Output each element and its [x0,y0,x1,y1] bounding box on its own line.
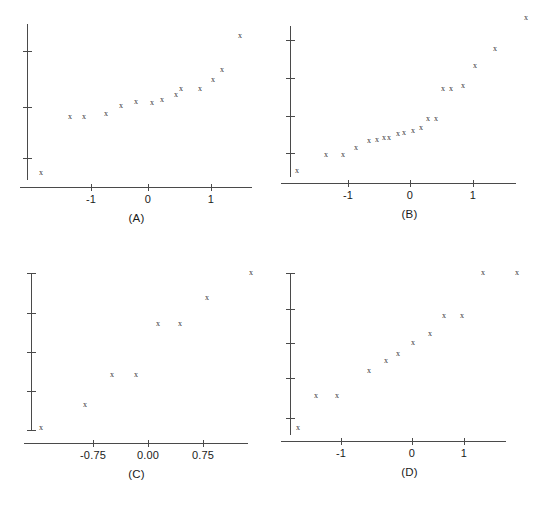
panel-d: -101xxxxxxxxxxxx(D) [273,253,546,506]
panel-label: (D) [273,466,546,478]
data-point-marker: x [442,312,446,320]
y-axis-tick [23,107,32,108]
data-point-marker: x [296,424,300,432]
x-axis-tick-label: 0 [409,447,415,459]
x-axis-tick-label: -0.75 [80,449,106,461]
y-axis-tick [286,418,295,419]
data-point-marker: x [178,320,182,328]
data-point-marker: x [198,85,202,93]
x-axis-tick-label: 1 [208,193,214,205]
x-axis-tick [348,180,349,187]
y-axis-tick [286,343,295,344]
data-point-marker: x [104,110,108,118]
y-axis-tick [286,273,295,274]
y-axis-line [290,26,291,177]
y-axis-tick [23,51,32,52]
x-axis-tick-label: 0 [407,189,413,201]
y-axis-tick [27,313,36,314]
data-point-marker: x [238,32,242,40]
data-point-marker: x [384,357,388,365]
data-point-marker: x [387,134,391,142]
y-axis-tick [286,378,295,379]
x-axis-tick [148,184,149,191]
x-axis-tick [412,438,413,445]
x-axis-tick [341,438,342,445]
data-point-marker: x [39,169,43,177]
x-axis-line [20,187,252,188]
data-point-marker: x [150,99,154,107]
x-axis-tick-label: 0.00 [137,449,159,461]
data-point-marker: x [411,127,415,135]
data-point-marker: x [515,269,519,277]
panel-b: -101xxxxxxxxxxxxxxxxxxxx(B) [273,0,546,253]
data-point-marker: x [83,401,87,409]
x-axis-tick-label: -1 [343,189,353,201]
y-axis-tick [23,158,32,159]
y-axis-tick [286,153,295,154]
x-axis-tick-label: -1 [86,193,96,205]
data-point-marker: x [367,137,371,145]
panel-c: -0.750.000.75xxxxxxxx(C) [0,253,273,506]
data-point-marker: x [524,14,528,22]
x-axis-tick-label: 0.75 [192,449,214,461]
x-axis-tick [473,180,474,187]
data-point-marker: x [434,115,438,123]
data-point-marker: x [314,392,318,400]
panel-label: (C) [0,468,273,480]
data-point-marker: x [68,113,72,121]
data-point-marker: x [211,76,215,84]
data-point-marker: x [402,129,406,137]
data-point-marker: x [461,82,465,90]
data-point-marker: x [134,98,138,106]
data-point-marker: x [156,320,160,328]
panel-a: -101xxxxxxxxxxxxxx(A) [0,0,273,253]
data-point-marker: x [375,136,379,144]
data-point-marker: x [82,113,86,121]
y-axis-tick [27,391,36,392]
data-point-marker: x [460,312,464,320]
data-point-marker: x [411,339,415,347]
data-point-marker: x [134,371,138,379]
x-axis-line [281,183,516,184]
panel-label: (B) [273,208,546,220]
x-axis-tick-label: 0 [145,193,151,205]
y-axis-tick [27,273,36,274]
x-axis-tick-label: 1 [470,189,476,201]
y-axis-tick [27,430,36,431]
data-point-marker: x [179,85,183,93]
data-point-marker: x [249,269,253,277]
y-axis-tick [27,352,36,353]
data-point-marker: x [119,102,123,110]
figure-container: -101xxxxxxxxxxxxxx(A)-101xxxxxxxxxxxxxxx… [0,0,546,506]
data-point-marker: x [354,144,358,152]
data-point-marker: x [493,45,497,53]
data-point-marker: x [367,367,371,375]
y-axis-tick [286,309,295,310]
y-axis-line [27,24,28,180]
data-point-marker: x [39,424,43,432]
data-point-marker: x [419,124,423,132]
data-point-marker: x [335,392,339,400]
x-axis-tick-label: 1 [461,447,467,459]
data-point-marker: x [473,62,477,70]
y-axis-tick [286,116,295,117]
panel-label: (A) [0,212,273,224]
data-point-marker: x [428,330,432,338]
plot-area: -101xxxxxxxxxxxxxxxxxxxx(B) [273,0,546,253]
data-point-marker: x [382,134,386,142]
data-point-marker: x [160,96,164,104]
data-point-marker: x [220,66,224,74]
x-axis-tick-label: -1 [336,447,346,459]
data-point-marker: x [481,269,485,277]
x-axis-tick [211,184,212,191]
x-axis-tick [410,180,411,187]
x-axis-line [24,443,248,444]
x-axis-tick [148,440,149,447]
data-point-marker: x [324,151,328,159]
plot-area: -101xxxxxxxxxxxx(D) [273,253,546,506]
data-point-marker: x [205,294,209,302]
y-axis-tick [286,40,295,41]
data-point-marker: x [110,371,114,379]
x-axis-tick [93,440,94,447]
data-point-marker: x [441,85,445,93]
